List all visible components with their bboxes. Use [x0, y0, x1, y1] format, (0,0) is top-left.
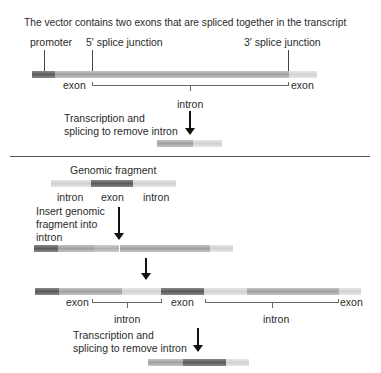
exon-segment: [148, 359, 183, 366]
intron-segment: [51, 180, 91, 187]
recombinant-exon3-label: exon: [340, 296, 363, 308]
down-arrow-icon: [193, 328, 203, 353]
step-label-line2: splicing to remove intron: [73, 342, 187, 354]
top-title: The vector contains two exons that are s…: [24, 17, 346, 29]
down-arrow-icon: [114, 207, 124, 242]
vector-bar: [32, 71, 317, 78]
fragment-title: Genomic fragment: [70, 164, 156, 176]
step-label-line1: Transcription and: [64, 112, 145, 124]
exon-segment: [55, 71, 92, 78]
final-transcript-bar: [148, 359, 249, 366]
splice5-label: 5′ splice junction: [86, 36, 163, 48]
exon-segment: [226, 359, 249, 366]
exon-segment: [210, 245, 233, 252]
intron-segment: [247, 288, 339, 295]
intron-segment: [122, 288, 161, 295]
section-divider: [10, 156, 370, 157]
recombinant-intron2-label: intron: [263, 313, 289, 325]
intron2-bracket-tick: [272, 303, 273, 308]
exon-label: exon: [291, 79, 314, 91]
intron-segment: [120, 245, 210, 252]
spliced-transcript-bar: [157, 140, 222, 147]
exon-segment: [193, 140, 222, 147]
exon-segment: [339, 288, 361, 295]
recombinant-bar: [35, 288, 361, 295]
promoter-label: promoter: [30, 36, 72, 48]
down-arrow-icon: [141, 258, 151, 282]
insert-step-line3: intron: [36, 231, 62, 243]
intron-label: intron: [177, 98, 203, 110]
promoter-segment: [35, 288, 59, 295]
genomic-fragment-bar: [51, 180, 176, 187]
inserted-exon-segment: [183, 359, 226, 366]
promoter-pointer: [44, 50, 45, 71]
intron-segment: [92, 71, 289, 78]
promoter-segment: [34, 245, 58, 252]
intron-segment: [133, 180, 176, 187]
down-arrow-icon: [185, 111, 195, 136]
insert-step-line1: Insert genomic: [36, 205, 105, 217]
insertion-bar: [34, 245, 233, 252]
intron-segment: [204, 288, 247, 295]
intron-bracket-tick: [190, 86, 191, 91]
recombinant-intron1-label: intron: [114, 313, 140, 325]
fragment-intron-label: intron: [57, 191, 83, 203]
intron1-bracket-tick: [127, 303, 128, 308]
promoter-segment: [32, 71, 55, 78]
step-label-line1: Transcription and: [73, 329, 154, 341]
exon-label: exon: [63, 79, 86, 91]
exon-segment: [59, 288, 122, 295]
splice3-label: 3′ splice junction: [244, 36, 321, 48]
insert-step-line2: fragment into: [36, 218, 97, 230]
recombinant-exon2-label: exon: [171, 296, 194, 308]
inserted-exon-segment: [161, 288, 204, 295]
exon-segment: [289, 71, 317, 78]
intron-segment: [94, 245, 119, 252]
exon-segment: [157, 140, 193, 147]
step-label-line2: splicing to remove intron: [64, 125, 178, 137]
fragment-intron-label: intron: [143, 191, 169, 203]
fragment-exon-label: exon: [101, 191, 124, 203]
recombinant-exon1-label: exon: [66, 296, 89, 308]
exon-segment: [58, 245, 94, 252]
exon-segment: [91, 180, 133, 187]
